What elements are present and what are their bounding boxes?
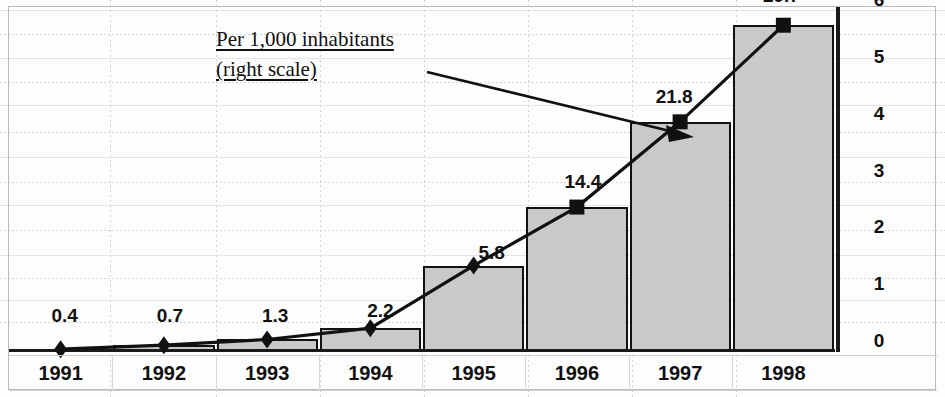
x-axis-label-band: 19911992199319941995199619971998 (9, 355, 937, 391)
marker-1992 (157, 336, 170, 354)
x-label-separator (629, 355, 630, 391)
x-axis-label-1995: 1995 (422, 355, 525, 391)
marker-1993 (261, 330, 274, 348)
x-axis-label-1993: 1993 (216, 355, 319, 391)
annotation-line-1: Per 1,000 inhabitants (216, 24, 394, 54)
x-axis-label-1991: 1991 (9, 355, 112, 391)
annotation-arrow (427, 72, 694, 142)
x-axis-label-1997: 1997 (629, 355, 732, 391)
x-label-separator (319, 355, 320, 391)
x-axis-label-1992: 1992 (112, 355, 215, 391)
data-label-1992: 0.7 (157, 305, 183, 327)
data-label-1997: 21.8 (656, 86, 693, 108)
data-label-1993: 1.3 (262, 305, 288, 327)
series-overlay (0, 0, 945, 397)
chart-root: 0123456 0.40.71.32.25.814.421.829.7 Per … (0, 0, 945, 397)
x-axis-label-1996: 1996 (525, 355, 628, 391)
data-label-1996: 14.4 (564, 171, 601, 193)
annotation-line-2: (right scale) (216, 54, 394, 84)
x-label-separator (732, 355, 733, 391)
x-label-separator (216, 355, 217, 391)
marker-1997 (673, 114, 688, 129)
x-label-separator (422, 355, 423, 391)
data-label-1998: 29.7 (763, 0, 800, 7)
x-axis-label-1998: 1998 (732, 355, 835, 391)
data-label-1994: 2.2 (367, 300, 393, 322)
marker-1998 (776, 18, 791, 33)
x-label-separator (525, 355, 526, 391)
marker-1996 (569, 200, 584, 215)
x-label-separator (112, 355, 113, 391)
data-label-1995: 5.8 (478, 242, 504, 264)
data-label-1991: 0.4 (51, 305, 77, 327)
x-axis-label-1994: 1994 (319, 355, 422, 391)
annotation-text: Per 1,000 inhabitants (right scale) (216, 24, 394, 85)
line-series (61, 25, 784, 349)
